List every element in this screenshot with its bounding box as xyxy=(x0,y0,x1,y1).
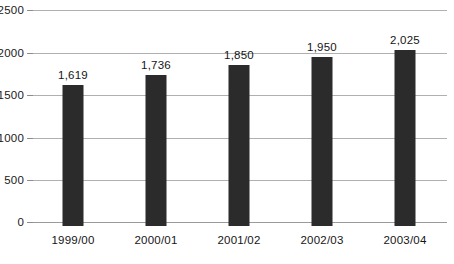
plot-area: 2500 2000 1500 1000 500 0 xyxy=(33,0,447,264)
ytick-label-1500: 1500 xyxy=(0,89,24,101)
bar-1999-00 xyxy=(63,85,84,226)
ytick-mark-0 xyxy=(27,222,33,223)
bar-2001-02 xyxy=(229,65,250,226)
bar-2000-01 xyxy=(146,75,167,226)
ytick-mark-2000 xyxy=(27,53,33,54)
xtick-label-2002-03: 2002/03 xyxy=(301,234,344,246)
bar-value-label-2002-03: 1,950 xyxy=(307,41,337,53)
gridline-2500 xyxy=(33,10,447,11)
bar-2002-03 xyxy=(312,57,333,226)
bar-value-label-2003-04: 2,025 xyxy=(390,34,420,46)
bar-value-label-2001-02: 1,850 xyxy=(224,49,254,61)
ytick-mark-500 xyxy=(27,180,33,181)
ytick-label-0: 0 xyxy=(17,216,24,228)
bar-value-label-2000-01: 1,736 xyxy=(141,59,171,71)
ytick-mark-1000 xyxy=(27,138,33,139)
ytick-label-2000: 2000 xyxy=(0,47,24,59)
xtick-label-2001-02: 2001/02 xyxy=(218,234,261,246)
ytick-label-1000: 1000 xyxy=(0,132,24,144)
xtick-label-2003-04: 2003/04 xyxy=(384,234,427,246)
ytick-label-2500: 2500 xyxy=(0,4,24,16)
ytick-mark-2500 xyxy=(27,10,33,11)
bar-chart: 2500 2000 1500 1000 500 0 xyxy=(0,0,454,264)
xtick-label-2000-01: 2000/01 xyxy=(135,234,178,246)
ytick-label-500: 500 xyxy=(4,174,24,186)
xtick-label-1999-00: 1999/00 xyxy=(52,234,95,246)
bar-value-label-1999-00: 1,619 xyxy=(58,69,88,81)
ytick-mark-1500 xyxy=(27,95,33,96)
bar-2003-04 xyxy=(395,50,416,226)
